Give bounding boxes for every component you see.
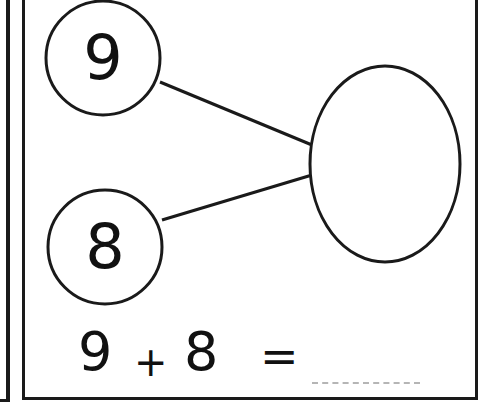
sum-ellipse[interactable] xyxy=(310,66,460,262)
connector-top xyxy=(160,82,312,145)
connector-bottom xyxy=(162,175,312,220)
equation-equals: = xyxy=(260,326,299,386)
equation-operator: + xyxy=(134,332,168,392)
bottom-number: 8 xyxy=(85,210,124,283)
equation-left-operand: 9 xyxy=(78,322,112,382)
answer-blank[interactable] xyxy=(312,382,420,384)
top-number: 9 xyxy=(83,21,122,94)
equation-right-operand: 8 xyxy=(184,322,218,382)
number-bond-diagram: 9 8 xyxy=(0,0,486,416)
